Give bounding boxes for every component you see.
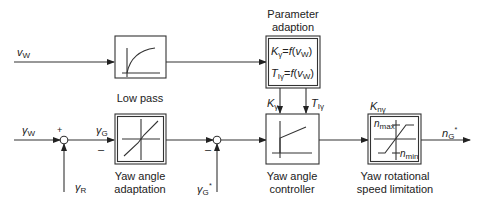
gamma-g-star-label: γG* xyxy=(197,180,211,199)
t-i-gamma-formula: TIγ=f(vW) xyxy=(271,67,314,83)
low-pass-block xyxy=(115,36,166,78)
k-gamma-label: Kγ xyxy=(267,97,278,113)
n-g-star-label: nG* xyxy=(442,124,457,143)
yaw-angle-controller-block xyxy=(266,114,319,164)
yaw-speed-limitation-caption: Yaw rotational speed limitation xyxy=(345,170,445,196)
low-pass-caption: Low pass xyxy=(100,92,180,105)
sum-junction-2 xyxy=(213,136,221,144)
gamma-w-label: γW xyxy=(22,124,35,140)
sum2-minus-sign: – xyxy=(205,143,211,155)
sum1-plus-sign: + xyxy=(57,124,62,136)
t-i-gamma-label: TIγ xyxy=(311,97,324,113)
yaw-angle-adaptation-caption: Yaw angle adaptation xyxy=(100,170,180,196)
gamma-g-label: γG xyxy=(96,124,108,140)
v-w-label: vW xyxy=(17,46,30,62)
gamma-r-label: γR xyxy=(75,181,86,197)
k-gamma-formula: Kγ=f(vW) xyxy=(271,45,312,61)
parameter-adaption-title: Parameter adaption xyxy=(255,8,331,34)
sum-junction-1 xyxy=(60,136,68,144)
n-max-label: nmax xyxy=(374,118,395,133)
yaw-angle-controller-caption: Yaw angle controller xyxy=(252,170,332,196)
k-n-gamma-label: Knγ xyxy=(370,100,386,116)
n-min-label: nmin xyxy=(400,148,418,163)
sum1-minus-sign: – xyxy=(98,143,104,155)
